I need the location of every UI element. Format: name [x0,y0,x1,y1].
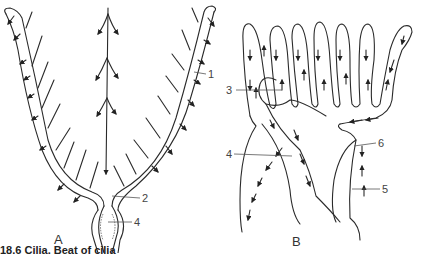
leader-b4 [234,154,292,156]
body-wall-right [338,124,360,240]
right-gill-filament [112,6,216,206]
left-gill-filament [5,8,104,206]
cilia-right [114,8,214,186]
panel-b: 3 4 5 6 B [226,22,412,249]
callout-b-3: 3 [226,84,232,96]
callout-b-6: 6 [378,137,384,149]
cilia-left [8,12,98,202]
callout-a-1: 1 [208,68,214,80]
callout-a-4: 4 [134,216,140,228]
leader-b6 [354,143,376,146]
callout-a-2: 2 [142,192,148,204]
panel-label-b: B [292,234,301,249]
body-wall-left [240,116,256,232]
callout-b-4: 4 [226,148,232,160]
leader-a2 [112,196,140,198]
leader-a1 [194,72,206,74]
panel-a: 1 2 4 A [5,6,216,253]
figure-caption: 18.6 Cilia. Beat of cilia [0,244,116,256]
callout-b-5: 5 [382,183,388,195]
flow-arrow-center [106,8,108,174]
